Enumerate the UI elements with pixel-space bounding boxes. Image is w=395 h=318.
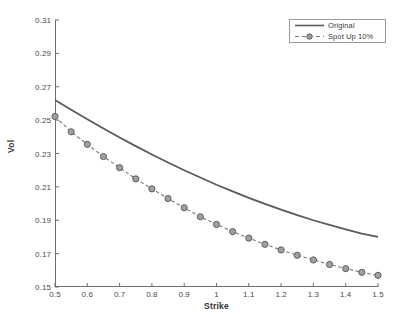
data-point-marker <box>278 247 284 253</box>
x-tick-label: 0.5 <box>49 290 60 299</box>
data-point-marker <box>84 141 90 147</box>
x-tick-label: 1.5 <box>372 290 383 299</box>
legend-swatch-solid-line <box>293 20 326 31</box>
data-point-marker <box>294 252 300 258</box>
series-line-spot-up-10 <box>55 116 378 275</box>
x-tick-label: 1 <box>214 290 219 299</box>
y-tick-label: 0.17 <box>35 249 51 258</box>
x-tick-label: 1.3 <box>308 290 319 299</box>
x-tick-label: 1.2 <box>275 290 286 299</box>
plot-area <box>55 20 378 287</box>
data-point-marker <box>133 176 139 182</box>
data-point-marker <box>165 195 171 201</box>
legend-swatch-dashed-marker-line <box>293 31 326 42</box>
x-tick-label: 0.7 <box>114 290 125 299</box>
data-point-marker <box>149 186 155 192</box>
x-tick-label: 1.4 <box>340 290 351 299</box>
data-point-marker <box>52 113 58 119</box>
y-tick-label: 0.31 <box>35 16 51 25</box>
x-tick-label: 0.6 <box>82 290 93 299</box>
x-tick-label: 0.9 <box>178 290 189 299</box>
y-axis-title: Vol <box>6 140 16 153</box>
series-layer <box>55 20 378 287</box>
data-point-marker <box>326 261 332 267</box>
figure-canvas: Vol 0.150.170.190.210.230.250.270.290.31… <box>0 0 395 318</box>
y-tick-label: 0.29 <box>35 49 51 58</box>
data-point-marker <box>117 165 123 171</box>
legend-item-original[interactable]: Original <box>290 20 385 31</box>
y-tick-label: 0.23 <box>35 149 51 158</box>
data-point-marker <box>262 241 268 247</box>
y-tick-label: 0.27 <box>35 82 51 91</box>
data-point-marker <box>181 205 187 211</box>
y-tick-label: 0.25 <box>35 116 51 125</box>
legend-item-spot-up[interactable]: Spot Up 10% <box>290 31 385 42</box>
data-point-marker <box>68 129 74 135</box>
x-tick-label: 0.8 <box>146 290 157 299</box>
x-axis-title: Strike <box>55 301 378 311</box>
x-tick-label: 1.1 <box>243 290 254 299</box>
data-point-marker <box>359 269 365 275</box>
data-point-marker <box>246 235 252 241</box>
data-point-marker <box>230 229 236 235</box>
data-point-marker <box>197 214 203 220</box>
legend-label-spot-up: Spot Up 10% <box>326 31 373 42</box>
y-axis-tick-labels: 0.150.170.190.210.230.250.270.290.31 <box>18 20 51 287</box>
data-point-marker <box>213 221 219 227</box>
series-line-original <box>55 100 378 237</box>
data-point-marker <box>343 266 349 272</box>
chart-legend[interactable]: Original Spot Up 10% <box>289 19 386 43</box>
y-tick-label: 0.19 <box>35 216 51 225</box>
y-tick-label: 0.21 <box>35 182 51 191</box>
legend-label-original: Original <box>326 20 355 31</box>
data-point-marker <box>100 153 106 159</box>
data-point-marker <box>310 257 316 263</box>
data-point-marker <box>375 272 381 278</box>
